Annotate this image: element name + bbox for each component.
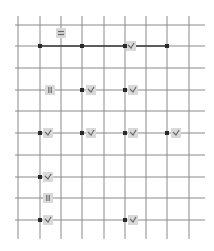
gate[interactable] xyxy=(43,193,53,203)
gate-box xyxy=(45,85,55,95)
gate-box xyxy=(128,85,138,95)
control-dot xyxy=(123,44,127,48)
grid-rows xyxy=(15,25,205,220)
gate[interactable] xyxy=(128,85,138,95)
gate-box xyxy=(56,28,66,38)
gates xyxy=(43,28,181,225)
gate[interactable] xyxy=(56,28,66,38)
gate-box xyxy=(43,215,53,225)
gate-box xyxy=(43,172,53,182)
gate[interactable] xyxy=(128,128,138,138)
gate-box xyxy=(171,128,181,138)
control-dot xyxy=(165,44,169,48)
control-dot xyxy=(80,131,84,135)
gate[interactable] xyxy=(86,128,96,138)
gate-box xyxy=(86,85,96,95)
control-dot xyxy=(123,131,127,135)
gate[interactable] xyxy=(171,128,181,138)
gate[interactable] xyxy=(43,172,53,182)
gate[interactable] xyxy=(43,215,53,225)
control-dot xyxy=(165,131,169,135)
control-dot xyxy=(80,88,84,92)
grid-columns xyxy=(18,16,189,239)
gate-box xyxy=(126,41,136,51)
gate-box xyxy=(86,128,96,138)
gate[interactable] xyxy=(45,85,55,95)
gate-box xyxy=(43,193,53,203)
control-dot xyxy=(80,44,84,48)
control-dot xyxy=(38,218,42,222)
gate[interactable] xyxy=(128,215,138,225)
control-dot xyxy=(123,218,127,222)
control-dot xyxy=(38,44,42,48)
control-dot xyxy=(38,175,42,179)
control-dot xyxy=(123,88,127,92)
gate-box xyxy=(128,215,138,225)
circuit-diagram xyxy=(0,0,214,251)
gate[interactable] xyxy=(126,41,136,51)
gate[interactable] xyxy=(86,85,96,95)
gate[interactable] xyxy=(43,128,53,138)
control-dot xyxy=(38,131,42,135)
gate-box xyxy=(43,128,53,138)
gate-box xyxy=(128,128,138,138)
